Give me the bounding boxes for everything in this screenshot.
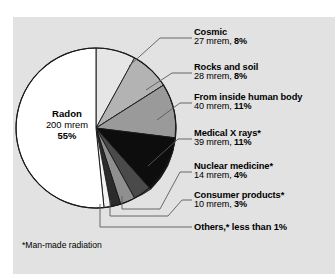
- callout-rocks-and-soil: Rocks and soil 28 mrem, 8%: [194, 62, 258, 82]
- callout-medical-x-rays-percent: 11%: [234, 137, 251, 147]
- callout-inside-human-body: From inside human body 40 mrem, 11%: [194, 92, 302, 112]
- callout-others: Others,* less than 1%: [194, 222, 287, 232]
- chart-footnote: *Man-made radiation: [22, 240, 102, 250]
- pie-center-label-radon: Radon 200 mrem 55%: [28, 108, 106, 142]
- callout-medical-x-rays-value-text: 39 mrem,: [194, 137, 234, 147]
- callout-nuclear-medicine-percent: 4%: [234, 170, 247, 180]
- callout-cosmic: Cosmic 27 mrem, 8%: [194, 27, 247, 47]
- callout-consumer-products-value-text: 10 mrem,: [194, 199, 234, 209]
- callout-rocks-and-soil-percent: 8%: [234, 71, 247, 81]
- callout-cosmic-percent: 8%: [234, 36, 247, 46]
- callout-medical-x-rays: Medical X rays* 39 mrem, 11%: [194, 128, 261, 148]
- callout-rocks-and-soil-value: 28 mrem, 8%: [194, 72, 258, 82]
- callout-consumer-products-percent: 3%: [234, 199, 247, 209]
- callout-inside-human-body-value: 40 mrem, 11%: [194, 102, 302, 112]
- callout-nuclear-medicine: Nuclear medicine* 14 mrem, 4%: [194, 161, 273, 181]
- callout-inside-human-body-percent: 11%: [234, 101, 251, 111]
- radon-label-value: 200 mrem: [28, 119, 106, 130]
- callout-consumer-products: Consumer products* 10 mrem, 3%: [194, 190, 284, 210]
- callout-rocks-and-soil-value-text: 28 mrem,: [194, 71, 234, 81]
- callout-cosmic-value: 27 mrem, 8%: [194, 37, 247, 47]
- callout-cosmic-value-text: 27 mrem,: [194, 36, 234, 46]
- callout-nuclear-medicine-value-text: 14 mrem,: [194, 170, 234, 180]
- callout-inside-human-body-value-text: 40 mrem,: [194, 101, 234, 111]
- radon-label-percent: 55%: [28, 130, 106, 141]
- callout-medical-x-rays-value: 39 mrem, 11%: [194, 138, 261, 148]
- callout-consumer-products-value: 10 mrem, 3%: [194, 200, 284, 210]
- callout-others-title: Others,* less than 1%: [194, 222, 287, 232]
- radon-label-name: Radon: [28, 108, 106, 119]
- leader-line-others: [100, 204, 192, 227]
- figure-root: Radon 200 mrem 55% Cosmic 27 mrem, 8% Ro…: [0, 0, 335, 274]
- callout-nuclear-medicine-value: 14 mrem, 4%: [194, 171, 273, 181]
